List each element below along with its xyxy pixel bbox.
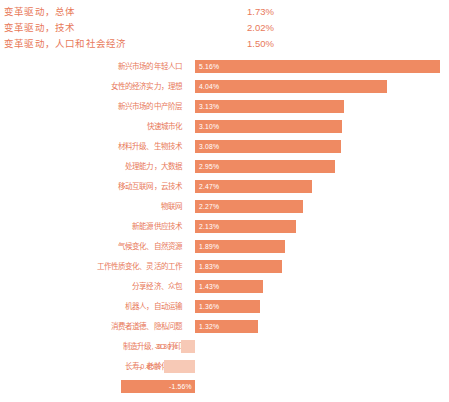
category-label: 女性的经济实力，理想: [111, 77, 182, 97]
summary-row: 变革驱动，人口和社会经济1.50%: [0, 36, 449, 52]
category-label: 移动互联网，云技术: [118, 177, 182, 197]
category-label: 新兴市场的中产阶层: [118, 97, 182, 117]
bar-value-label: -1.56%: [169, 380, 192, 393]
bar-value-label: -0.30%: [155, 340, 178, 353]
horizontal-bar-chart: 新兴市场的年轻人口5.16%女性的经济实力，理想4.04%新兴市场的中产阶层3.…: [0, 55, 449, 402]
chart-row: 人工智能-1.56%: [0, 377, 449, 397]
bar: [195, 60, 440, 73]
summary-label: 变革驱动，技术: [4, 20, 75, 36]
bar: [181, 340, 195, 353]
chart-row: 新兴市场的中产阶层3.13%: [0, 97, 449, 117]
chart-row: 长寿，老龄化社会-0.65%: [0, 357, 449, 377]
category-label: 新能源供应技术: [132, 217, 182, 237]
bar-value-label: 3.10%: [199, 120, 219, 133]
bar-value-label: 2.13%: [199, 220, 219, 233]
bar-value-label: -0.65%: [138, 360, 161, 373]
chart-row: 处理能力，大数据2.95%: [0, 157, 449, 177]
chart-row: 移动互联网，云技术2.47%: [0, 177, 449, 197]
chart-row: 新兴市场的年轻人口5.16%: [0, 57, 449, 77]
category-label: 工作性质变化、灵活的工作: [97, 257, 182, 277]
summary-value: 1.50%: [247, 36, 274, 52]
summary-value: 2.02%: [247, 20, 274, 36]
bar-value-label: 5.16%: [199, 60, 219, 73]
category-label: 气候变化、自然资源: [118, 237, 182, 257]
category-label: 物联网: [161, 197, 182, 217]
category-label: 分享经济、众包: [132, 277, 182, 297]
category-label: 处理能力，大数据: [125, 157, 182, 177]
bar-value-label: 2.95%: [199, 160, 219, 173]
summary-header: 变革驱动，总体1.73%变革驱动，技术2.02%变革驱动，人口和社会经济1.50…: [0, 0, 449, 52]
bar-value-label: 3.13%: [199, 100, 219, 113]
chart-row: 物联网2.27%: [0, 197, 449, 217]
bar-value-label: 2.47%: [199, 180, 219, 193]
chart-row: 气候变化、自然资源1.89%: [0, 237, 449, 257]
summary-label: 变革驱动，总体: [4, 4, 75, 20]
chart-row: 机器人，自动运输1.36%: [0, 297, 449, 317]
bar: [195, 80, 387, 93]
category-label: 新兴市场的年轻人口: [118, 57, 182, 77]
chart-page: 变革驱动，总体1.73%变革驱动，技术2.02%变革驱动，人口和社会经济1.50…: [0, 0, 449, 402]
bar-value-label: 4.04%: [199, 80, 219, 93]
chart-row: 制造升级, 3D 打印-0.30%: [0, 337, 449, 357]
bar-value-label: 2.27%: [199, 200, 219, 213]
chart-row: 新能源供应技术2.13%: [0, 217, 449, 237]
bar-value-label: 1.89%: [199, 240, 219, 253]
bar-value-label: 1.36%: [199, 300, 219, 313]
chart-row: 工作性质变化、灵活的工作1.83%: [0, 257, 449, 277]
summary-value: 1.73%: [247, 4, 274, 20]
category-label: 材料升级、生物技术: [118, 137, 182, 157]
bar-value-label: 1.32%: [199, 320, 219, 333]
summary-row: 变革驱动，技术2.02%: [0, 20, 449, 36]
bar-value-label: 3.08%: [199, 140, 219, 153]
summary-label: 变革驱动，人口和社会经济: [4, 36, 126, 52]
chart-row: 分享经济、众包1.43%: [0, 277, 449, 297]
category-label: 机器人，自动运输: [125, 297, 182, 317]
chart-row: 快速城市化3.10%: [0, 117, 449, 137]
bar-value-label: 1.83%: [199, 260, 219, 273]
bar: [164, 360, 195, 373]
chart-row: 消费者道德、隐私问题1.32%: [0, 317, 449, 337]
category-label: 快速城市化: [147, 117, 183, 137]
category-label: 消费者道德、隐私问题: [111, 317, 182, 337]
chart-row: 材料升级、生物技术3.08%: [0, 137, 449, 157]
chart-row: 女性的经济实力，理想4.04%: [0, 77, 449, 97]
bar-value-label: 1.43%: [199, 280, 219, 293]
summary-row: 变革驱动，总体1.73%: [0, 4, 449, 20]
